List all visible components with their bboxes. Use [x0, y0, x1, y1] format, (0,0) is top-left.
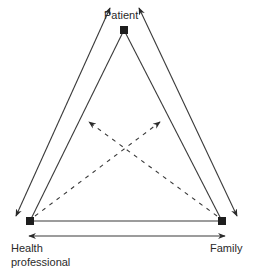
arrow-patient-family — [139, 8, 237, 216]
node-family-square — [218, 217, 226, 225]
node-family-label: Family — [210, 242, 242, 255]
node-patient-square — [120, 26, 128, 34]
relationship-triangle-diagram — [0, 0, 256, 273]
node-patient-label: Patient — [104, 9, 138, 22]
edge-patient-family — [124, 30, 222, 221]
node-health-professional-label-line2: professional — [11, 256, 70, 269]
arrow-patient-health-professional — [16, 8, 110, 216]
dashed-arrow-health-professional — [35, 122, 160, 216]
node-health-professional-label-line1: Health — [11, 242, 43, 255]
node-health-professional-square — [26, 217, 34, 225]
edge-patient-health-professional — [30, 30, 124, 221]
dashed-arrow-family — [89, 122, 217, 216]
